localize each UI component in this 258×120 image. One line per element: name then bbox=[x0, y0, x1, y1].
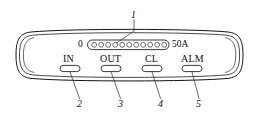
button-out-shape[interactable] bbox=[101, 65, 121, 71]
button-alm-label: ALM bbox=[181, 54, 204, 64]
led-segment bbox=[134, 42, 139, 47]
button-cl-label: CL bbox=[145, 54, 158, 64]
button-in-shape[interactable] bbox=[60, 65, 80, 71]
led-segment bbox=[141, 42, 146, 47]
led-segment bbox=[120, 42, 125, 47]
led-segment-group bbox=[92, 42, 167, 47]
led-scale-min-label: 0 bbox=[78, 40, 83, 50]
callout-number-2: 2 bbox=[77, 99, 82, 109]
led-segment bbox=[127, 42, 132, 47]
figure-canvas: 0 50A IN OUT CL ALM 1 2 3 4 5 bbox=[0, 0, 258, 120]
button-alm-shape[interactable] bbox=[182, 65, 202, 71]
callout-number-5: 5 bbox=[196, 99, 201, 109]
diagram-vector-layer bbox=[0, 0, 258, 120]
led-segment bbox=[148, 42, 153, 47]
callout-number-3: 3 bbox=[118, 99, 123, 109]
callout-number-1: 1 bbox=[131, 10, 136, 20]
led-segment bbox=[92, 42, 97, 47]
led-segment bbox=[162, 42, 167, 47]
panel-outer-outline bbox=[16, 29, 243, 81]
button-in-label: IN bbox=[63, 54, 74, 64]
led-segment bbox=[99, 42, 104, 47]
led-scale-max-label: 50A bbox=[172, 40, 188, 50]
button-cl-shape[interactable] bbox=[142, 65, 162, 71]
callout-number-4: 4 bbox=[158, 99, 163, 109]
led-segment bbox=[106, 42, 111, 47]
led-segment bbox=[155, 42, 160, 47]
button-out-label: OUT bbox=[100, 54, 121, 64]
